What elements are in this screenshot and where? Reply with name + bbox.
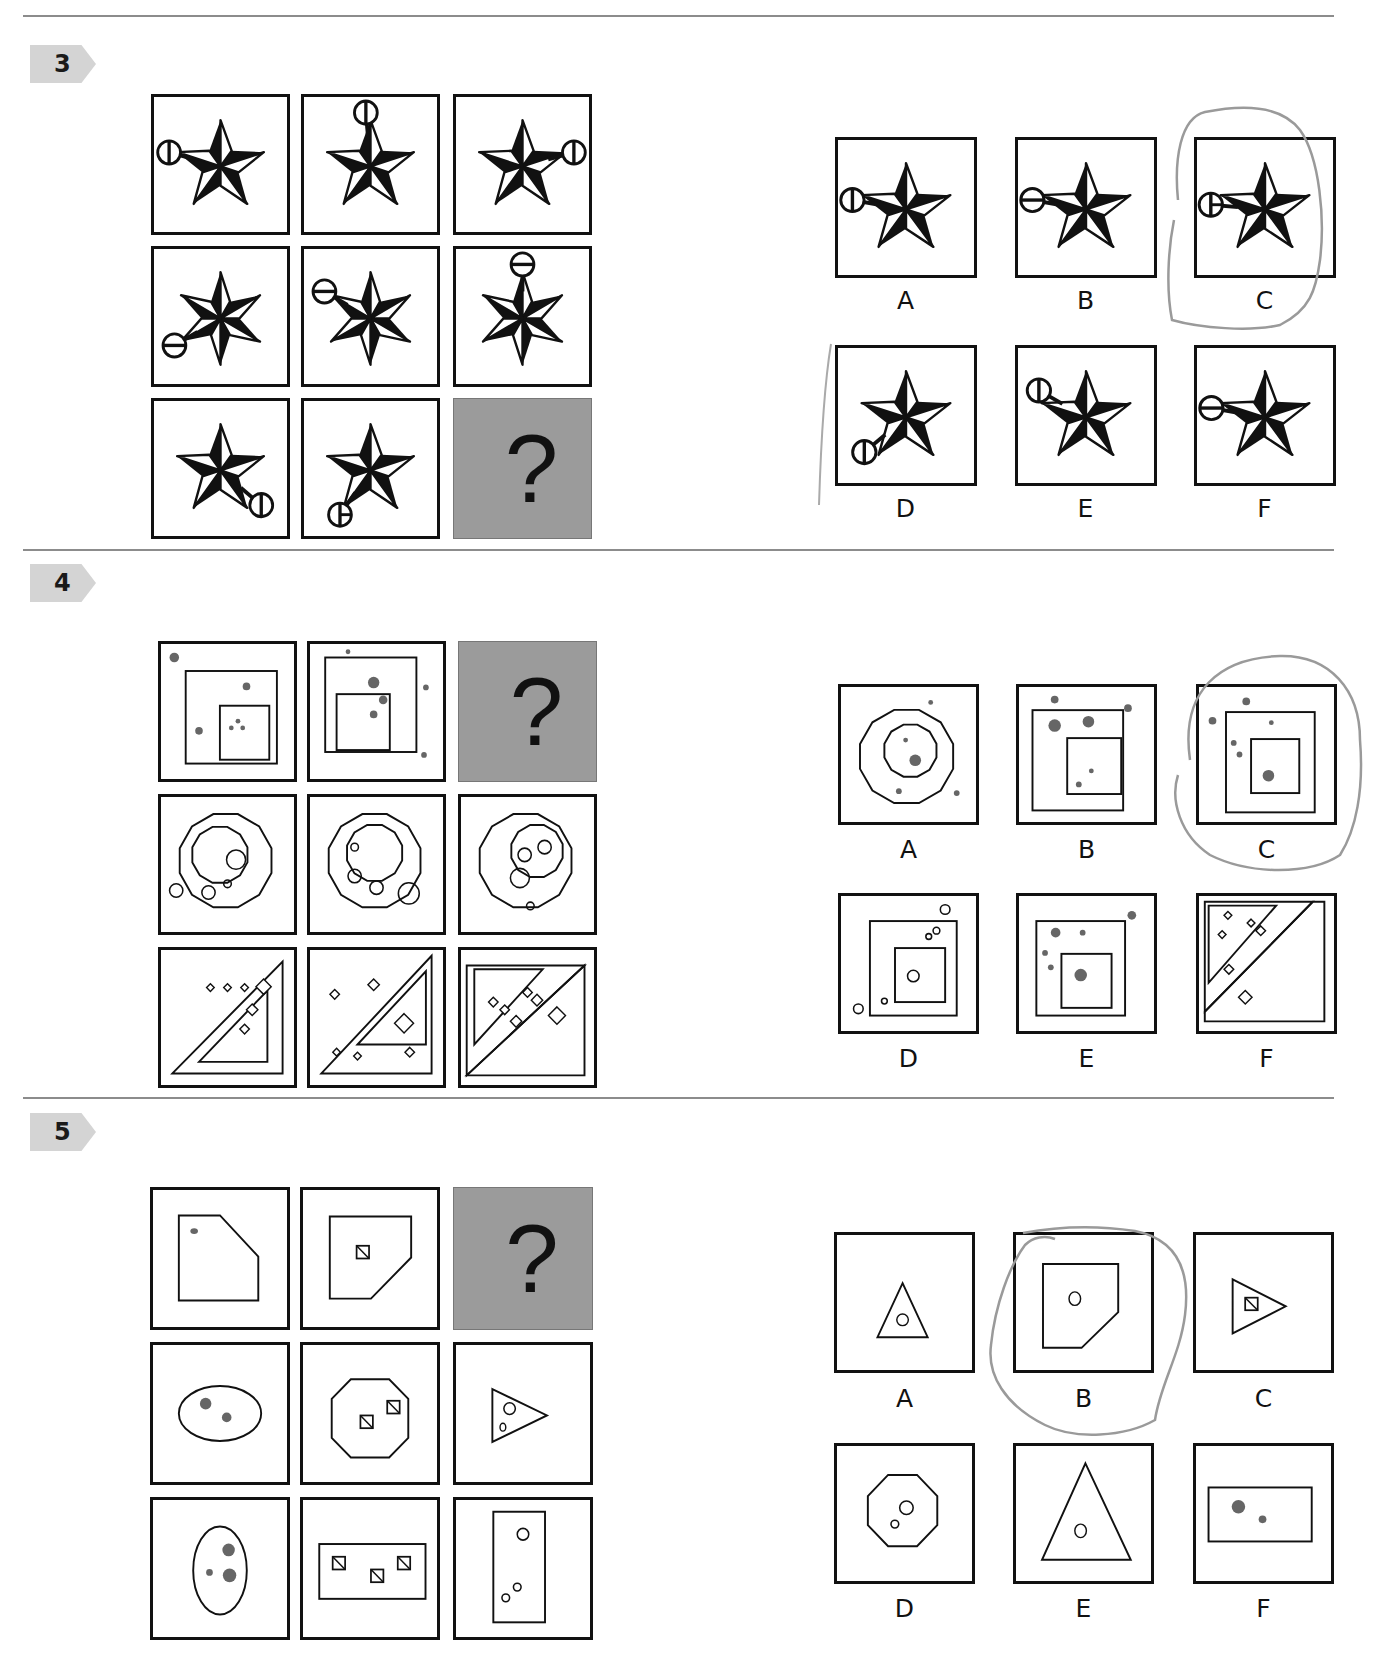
answer-option-label[interactable]: F: [1193, 1594, 1334, 1623]
answer-option-b[interactable]: [1013, 1232, 1154, 1373]
figure-icon: [154, 401, 287, 536]
figure-icon: [1019, 687, 1154, 822]
figure-icon: [161, 644, 294, 779]
figure-icon: [456, 1345, 590, 1482]
answer-option-label[interactable]: F: [1196, 1044, 1337, 1073]
figure-icon: [154, 97, 287, 232]
figure-icon: [153, 1345, 287, 1482]
answer-option-label[interactable]: D: [835, 494, 976, 523]
matrix-cell: [150, 1187, 290, 1330]
figure-icon: [456, 249, 589, 384]
answer-option-label[interactable]: B: [1015, 286, 1156, 315]
answer-option-f[interactable]: [1193, 1443, 1334, 1584]
answer-option-e[interactable]: [1013, 1443, 1154, 1584]
figure-icon: [1018, 348, 1154, 483]
matrix-cell: [453, 246, 592, 387]
matrix-cell: [150, 1497, 290, 1640]
question-number-badge: 3: [30, 45, 96, 83]
answer-option-label[interactable]: A: [834, 1384, 975, 1413]
answer-option-label[interactable]: F: [1194, 494, 1335, 523]
matrix-cell: [301, 94, 440, 235]
figure-icon: [304, 97, 437, 232]
figure-icon: [837, 1446, 972, 1581]
figure-icon: [161, 797, 294, 932]
figure-icon: [1016, 1446, 1151, 1581]
answer-option-c[interactable]: [1194, 137, 1336, 278]
answer-option-label[interactable]: E: [1016, 1044, 1157, 1073]
figure-icon: [1199, 687, 1334, 822]
matrix-cell: [300, 1187, 440, 1330]
question-mark: ?: [454, 1188, 592, 1329]
answer-option-c[interactable]: [1196, 684, 1337, 825]
figure-icon: [1197, 140, 1333, 275]
figure-icon: [1018, 140, 1154, 275]
answer-option-label[interactable]: A: [835, 286, 976, 315]
answer-option-label[interactable]: B: [1016, 835, 1157, 864]
answer-option-label[interactable]: C: [1196, 835, 1337, 864]
figure-icon: [461, 797, 594, 932]
matrix-cell: [307, 947, 446, 1088]
answer-option-d[interactable]: [838, 893, 979, 1034]
figure-icon: [1196, 1446, 1331, 1581]
answer-option-label[interactable]: B: [1013, 1384, 1154, 1413]
figure-icon: [303, 1500, 437, 1637]
answer-option-a[interactable]: [838, 684, 979, 825]
answer-option-f[interactable]: [1194, 345, 1336, 486]
answer-option-label[interactable]: E: [1015, 494, 1156, 523]
figure-icon: [841, 896, 976, 1031]
missing-cell: ?: [453, 1187, 593, 1330]
figure-icon: [303, 1345, 437, 1482]
figure-icon: [304, 249, 437, 384]
answer-option-a[interactable]: [834, 1232, 975, 1373]
matrix-cell: [158, 641, 297, 782]
figure-icon: [838, 348, 974, 483]
answer-option-label[interactable]: D: [838, 1044, 979, 1073]
matrix-cell: [151, 94, 290, 235]
answer-option-a[interactable]: [835, 137, 977, 278]
matrix-cell: [300, 1342, 440, 1485]
answer-option-label[interactable]: D: [834, 1594, 975, 1623]
figure-icon: [153, 1500, 287, 1637]
answer-option-b[interactable]: [1016, 684, 1157, 825]
matrix-cell: [453, 94, 592, 235]
pencil-stroke-mark: [815, 340, 835, 510]
figure-icon: [841, 687, 976, 822]
matrix-cell: [458, 947, 597, 1088]
answer-option-d[interactable]: [834, 1443, 975, 1584]
figure-icon: [153, 1190, 287, 1327]
matrix-cell: [300, 1497, 440, 1640]
top-rule: [23, 15, 1334, 17]
answer-option-label[interactable]: C: [1193, 1384, 1334, 1413]
missing-cell: ?: [458, 641, 597, 782]
matrix-cell: [458, 794, 597, 935]
answer-option-label[interactable]: E: [1013, 1594, 1154, 1623]
answer-option-c[interactable]: [1193, 1232, 1334, 1373]
figure-icon: [154, 249, 287, 384]
section-divider: [23, 549, 1334, 551]
figure-icon: [456, 97, 589, 232]
section-divider: [23, 1097, 1334, 1099]
matrix-cell: [301, 398, 440, 539]
question-mark: ?: [454, 399, 591, 538]
figure-icon: [1199, 896, 1334, 1031]
answer-option-f[interactable]: [1196, 893, 1337, 1034]
figure-icon: [303, 1190, 437, 1327]
answer-option-label[interactable]: A: [838, 835, 979, 864]
figure-icon: [1019, 896, 1154, 1031]
answer-option-e[interactable]: [1015, 345, 1157, 486]
question-number-badge: 4: [30, 564, 96, 602]
figure-icon: [837, 1235, 972, 1370]
answer-option-d[interactable]: [835, 345, 977, 486]
figure-icon: [1016, 1235, 1151, 1370]
missing-cell: ?: [453, 398, 592, 539]
matrix-cell: [150, 1342, 290, 1485]
answer-option-label[interactable]: C: [1194, 286, 1335, 315]
figure-icon: [838, 140, 974, 275]
figure-icon: [310, 950, 443, 1085]
figure-icon: [310, 644, 443, 779]
figure-icon: [1196, 1235, 1331, 1370]
matrix-cell: [158, 947, 297, 1088]
figure-icon: [456, 1500, 590, 1637]
answer-option-b[interactable]: [1015, 137, 1157, 278]
answer-option-e[interactable]: [1016, 893, 1157, 1034]
